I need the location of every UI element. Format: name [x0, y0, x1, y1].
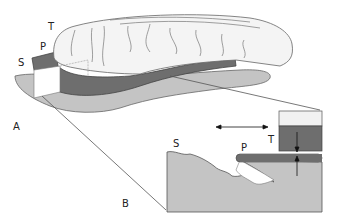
- label-s-b: S: [173, 139, 179, 149]
- diagram-canvas: [0, 0, 337, 223]
- panel-a-label: A: [13, 122, 20, 132]
- tissue-top-b: [279, 111, 322, 126]
- panel-b-label: B: [122, 199, 129, 209]
- arrow-head-left: [216, 125, 221, 129]
- cut-face-a: [34, 66, 60, 98]
- label-t-b: T: [268, 135, 274, 145]
- label-t-a: T: [48, 22, 54, 32]
- figure: T P S A S P T B: [0, 0, 337, 223]
- label-p-a: P: [40, 42, 46, 52]
- label-s-a: S: [18, 58, 24, 68]
- label-p-b: P: [241, 143, 247, 153]
- panel-b: [167, 111, 322, 212]
- arrow-head-right: [263, 125, 268, 129]
- tissue-layer-a: [54, 15, 293, 74]
- tissue-dark-b: [279, 126, 322, 151]
- plate-bar-fill: [240, 154, 322, 162]
- zoom-line-left: [42, 96, 166, 210]
